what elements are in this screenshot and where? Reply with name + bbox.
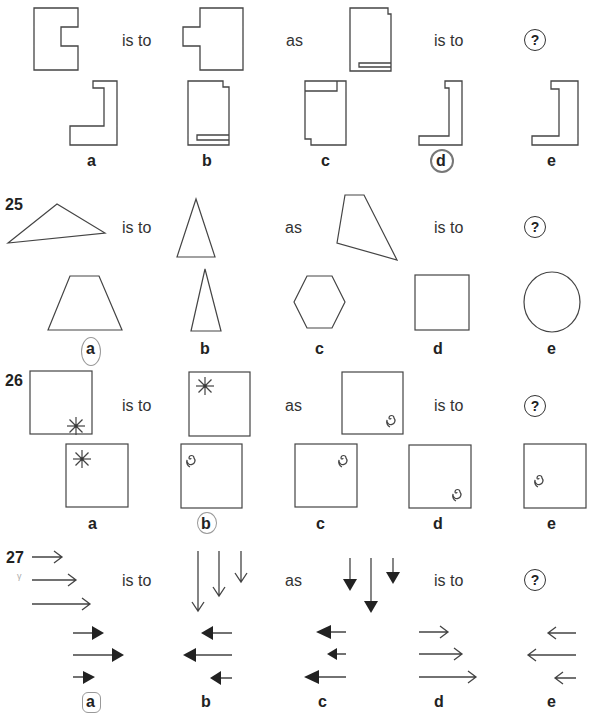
option-label-a[interactable]: a [86,693,95,711]
option-label-d[interactable]: d [434,693,444,711]
arrowhead-icon [210,671,221,685]
q27-stimulus-3 [350,558,393,602]
arrowhead-icon [92,626,104,640]
arrowhead-icon [304,670,319,684]
arrowhead-icon [316,625,331,639]
arrowhead-icon [201,626,213,640]
q27-option-d [419,626,476,683]
is-to-label: is to [122,572,151,590]
arrowhead-icon [327,648,337,660]
arrowhead-icon [112,648,124,662]
q27-stimulus-1 [32,551,90,610]
unknown-answer-icon: ? [524,569,546,591]
q27-option-e [528,627,576,684]
option-label-b[interactable]: b [201,693,211,711]
is-to-label: is to [434,572,463,590]
stray-mark: γ [17,571,22,581]
arrowhead-icon [183,648,196,662]
option-label-c[interactable]: c [318,693,327,711]
as-label: as [285,572,302,590]
arrowhead-icon [83,671,95,684]
q27-stimulus-2 [192,551,247,611]
option-label-e[interactable]: e [547,693,556,711]
